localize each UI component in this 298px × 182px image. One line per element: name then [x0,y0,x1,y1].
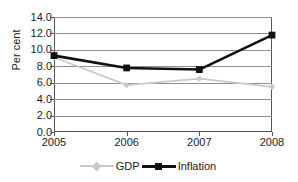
y-tick-label: 4.0 [26,94,52,105]
data-point [269,84,275,90]
data-point [269,32,276,39]
y-axis-tick-labels: 14.012.010.08.06.04.02.00.0 [26,0,52,182]
legend-swatch [80,160,114,172]
y-tick-label: 2.0 [26,110,52,121]
y-tick-label: 14.0 [26,12,52,23]
legend-swatch [142,160,176,172]
x-tick-label: 2008 [252,136,292,149]
x-tick-label: 2007 [179,136,219,149]
plot-area [54,17,272,132]
y-tick-label: 10.0 [26,44,52,55]
series-gdp [51,54,275,90]
chart-legend: GDPInflation [0,156,298,176]
y-tick-label: 12.0 [26,28,52,39]
data-point [196,66,203,73]
data-point [123,65,130,72]
legend-label: GDP [114,160,142,172]
legend-label: Inflation [176,160,219,172]
series-layer [54,17,272,132]
y-tick-label: 6.0 [26,77,52,88]
x-tick-label: 2006 [107,136,147,149]
legend-marker-square-icon [155,163,162,170]
series-line [54,35,272,70]
data-point [196,75,202,81]
data-point [123,82,129,88]
series-inflation [51,32,276,73]
data-point [51,52,58,59]
legend-entry-inflation[interactable]: Inflation [142,160,219,172]
y-tick-label: 8.0 [26,61,52,72]
x-tick-label: 2005 [34,136,74,149]
legend-entry-gdp[interactable]: GDP [80,160,142,172]
x-axis-tick-labels: 2005200620072008 [0,136,298,152]
legend-marker-diamond-icon [91,162,101,172]
y-axis-title: Per cent [10,14,22,86]
chart-container: Per cent 14.012.010.08.06.04.02.00.0 200… [0,0,298,182]
